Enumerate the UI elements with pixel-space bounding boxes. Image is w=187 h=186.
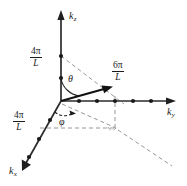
dashed-diagonal-extension <box>118 130 172 166</box>
diagram-canvas <box>0 0 187 186</box>
kz-axis-label-sub: z <box>74 15 77 23</box>
kz-axis-arrowhead <box>57 10 64 20</box>
kx-tick-denominator: L <box>13 123 25 133</box>
wavevector-arrowhead <box>102 85 114 93</box>
construction-lines <box>40 56 172 166</box>
kx-tick-fraction: 4π L <box>13 111 25 133</box>
dot-ky-5 <box>149 99 153 103</box>
kx-tick-label: 4π L <box>13 111 25 133</box>
ky-axis-label-sub: y <box>172 111 175 119</box>
kz-axis-label: kz <box>69 11 76 23</box>
ky-tick-numerator: 6π <box>112 61 124 71</box>
theta-label: θ <box>68 74 73 84</box>
dashed-origin-to-projection <box>62 104 116 128</box>
phi-arc-arrowhead <box>70 110 76 115</box>
ky-tick-label: 6π L <box>112 61 124 83</box>
wavevector-arrow <box>61 85 113 101</box>
ky-tick-fraction: 6π L <box>112 61 124 83</box>
dot-ky-3 <box>113 99 117 103</box>
kx-axis <box>22 101 61 171</box>
dot-kz-2 <box>59 54 63 58</box>
dot-kx-3 <box>27 155 31 159</box>
kx-axis-label: kx <box>9 166 17 178</box>
kx-axis-label-main: k <box>9 165 13 176</box>
kx-tick-numerator: 4π <box>13 111 25 121</box>
ky-axis-label-main: k <box>167 106 171 117</box>
dot-kx-1 <box>48 118 52 122</box>
kx-axis-line <box>26 101 61 163</box>
kz-tick-label: 4π L <box>30 47 42 69</box>
dot-ky-4 <box>131 99 135 103</box>
ky-tick-denominator: L <box>112 73 124 83</box>
kx-axis-label-sub: x <box>14 170 17 178</box>
ky-axis-label: ky <box>167 107 175 119</box>
lattice-points <box>27 54 153 159</box>
dot-ky-2 <box>95 99 99 103</box>
dot-kx-2 <box>37 137 41 141</box>
kz-tick-numerator: 4π <box>30 47 42 57</box>
dot-ky-1 <box>77 99 81 103</box>
kz-tick-fraction: 4π L <box>30 47 42 69</box>
kz-axis-label-main: k <box>69 10 73 21</box>
phi-label: φ <box>59 117 65 127</box>
ky-axis-arrowhead <box>166 97 176 104</box>
kz-tick-denominator: L <box>30 59 42 69</box>
k-space-diagram: kz ky kx 4π L 4π L 6π L θ φ <box>0 0 187 186</box>
